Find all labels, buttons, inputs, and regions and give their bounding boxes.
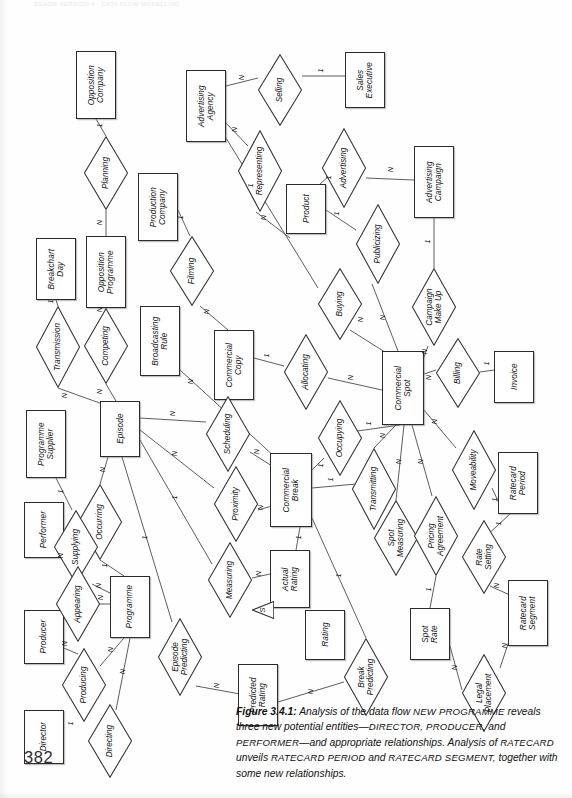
relationship-allocating[interactable]: Allocating — [284, 334, 328, 410]
cardinality-marker: N — [168, 411, 177, 416]
relationship-advertising[interactable]: Advertising — [322, 128, 366, 208]
caption-segment: unveils — [236, 752, 271, 763]
cardinality-marker: 1 — [170, 495, 179, 499]
cardinality-marker: 1 — [100, 563, 109, 567]
relationship-pricing-agreement[interactable]: PricingAgreement — [414, 496, 458, 576]
entity-spot-rate[interactable]: SpotRate — [410, 608, 450, 660]
cardinality-marker: N — [420, 349, 429, 354]
node-label: Proximity — [231, 487, 240, 521]
entity-ratecard-segment[interactable]: RatecardSegment — [508, 580, 548, 646]
node-label: PricingAgreement — [427, 516, 445, 556]
relationship-publicizing[interactable]: Publicizing — [356, 204, 400, 284]
node-label: Billing — [453, 362, 462, 384]
node-label: BreakPredicting — [357, 659, 375, 695]
connection-line — [326, 210, 356, 230]
cardinality-marker: N — [424, 375, 433, 380]
subtype-marker[interactable]: S — [252, 601, 274, 619]
node-label: CampaignMake Up — [425, 288, 443, 325]
entity-programme[interactable]: Programme — [110, 576, 150, 638]
entity-sales-executive[interactable]: SalesExecutive — [345, 52, 385, 108]
entity-invoice[interactable]: Invoice — [494, 351, 534, 403]
node-label: SpotMeasuring — [387, 519, 405, 557]
connection-line — [312, 484, 356, 488]
entity-advertising-campaign[interactable]: AdvertisingCampaign — [414, 146, 454, 218]
relationship-measuring[interactable]: Measuring — [208, 542, 252, 618]
cardinality-marker: 1 — [490, 497, 499, 501]
figure-number: Figure 3.4.1: — [236, 706, 297, 717]
relationship-representing[interactable]: Representing — [238, 130, 282, 212]
entity-episode[interactable]: Episode — [100, 401, 140, 457]
cardinality-marker: 1 — [176, 215, 185, 219]
connection-line — [106, 384, 116, 401]
relationship-competing[interactable]: Competing — [84, 308, 128, 384]
cardinality-marker: N — [106, 647, 115, 652]
node-label: AdvertisingAgency — [197, 85, 215, 127]
node-label: Episode — [115, 414, 124, 444]
cardinality-marker: N — [170, 451, 179, 456]
relationship-campaign-make-up[interactable]: CampaignMake Up — [412, 268, 456, 346]
node-label: OppositionProgramme — [97, 250, 115, 294]
node-label: Performer — [39, 511, 48, 548]
cardinality-marker: 1 — [66, 721, 75, 725]
node-label: SalesExecutive — [356, 62, 374, 98]
node-label: ProgrammeSupplier — [37, 422, 55, 466]
node-label: CommercialCopy — [225, 343, 243, 388]
caption-segment: RATECARD — [500, 737, 554, 748]
relationship-directing[interactable]: Directing — [88, 704, 132, 778]
entity-rating[interactable]: Rating — [305, 610, 345, 660]
entity-commercial-copy[interactable]: CommercialCopy — [214, 330, 254, 400]
connection-line — [424, 370, 436, 374]
entity-opposition-programme[interactable]: OppositionProgramme — [86, 236, 126, 308]
cardinality-marker: N — [95, 307, 104, 312]
connection-line — [100, 560, 124, 576]
entity-broadcasting-rule[interactable]: BroadcastingRule — [140, 306, 180, 376]
cardinality-marker: N — [60, 393, 69, 398]
relationship-episode-predicting[interactable]: EpisodePredicting — [158, 618, 202, 696]
relationship-filming[interactable]: Filming — [170, 236, 214, 306]
node-label: Competing — [101, 326, 110, 366]
relationship-scheduling[interactable]: Scheduling — [206, 396, 250, 472]
cardinality-marker: 1 — [294, 535, 303, 539]
entity-advertising-agency[interactable]: AdvertisingAgency — [186, 70, 226, 142]
relationship-selling[interactable]: Selling — [258, 54, 302, 126]
caption-segment: Analysis of the data flow — [297, 706, 413, 717]
caption-segment: and — [485, 721, 505, 732]
node-label: Rating — [320, 623, 329, 647]
cardinality-marker: 1 — [482, 361, 491, 365]
cardinality-marker: N — [96, 595, 105, 600]
entity-ratecard-period[interactable]: RatecardPeriod — [498, 452, 538, 514]
cardinality-marker: N — [492, 583, 501, 588]
relationship-spot-measuring[interactable]: SpotMeasuring — [374, 500, 418, 576]
entity-product[interactable]: Product — [286, 184, 326, 234]
relationship-planning[interactable]: Planning — [84, 136, 128, 210]
entity-commercial-break[interactable]: CommercialBreak — [270, 453, 312, 527]
entity-commercial-spot[interactable]: CommercialSpot — [382, 351, 424, 425]
cardinality-marker: N — [95, 389, 104, 394]
cardinality-marker: 1 — [140, 535, 149, 539]
relationship-buying[interactable]: Buying — [318, 268, 362, 340]
cardinality-marker: N — [378, 433, 387, 438]
connection-line — [178, 210, 190, 236]
node-label: EpisodePredicting — [171, 639, 189, 675]
node-label: OppositionCompany — [87, 65, 105, 105]
cardinality-marker: N — [60, 641, 69, 646]
entity-breakchart-day[interactable]: BreakchartDay — [36, 238, 76, 300]
entity-programme-supplier[interactable]: ProgrammeSupplier — [26, 410, 66, 478]
running-header: SSADM VERSION 4 - DATA FLOW MODELLING — [34, 1, 254, 8]
relationship-transmission[interactable]: Transmission — [36, 306, 80, 388]
entity-opposition-company[interactable]: OppositionCompany — [76, 51, 116, 119]
connection-line — [430, 576, 436, 608]
entity-production-company[interactable]: ProductionCompany — [138, 173, 178, 241]
node-label: Advertising — [339, 148, 348, 189]
cardinality-marker: N — [259, 215, 268, 220]
node-label: RatecardSegment — [519, 596, 537, 630]
relationship-appearing[interactable]: Appearing — [56, 566, 100, 642]
entity-actual-rating[interactable]: ActualRating — [270, 550, 310, 608]
caption-segment: PERFORMER — [236, 737, 299, 748]
relationship-proximity[interactable]: Proximity — [214, 466, 258, 542]
caption-segment: —and appropriate relationships. Analysis… — [299, 737, 500, 748]
relationship-billing[interactable]: Billing — [436, 338, 480, 408]
node-label: Selling — [275, 78, 284, 103]
connection-line — [366, 178, 414, 180]
node-label: Appearing — [73, 585, 82, 622]
